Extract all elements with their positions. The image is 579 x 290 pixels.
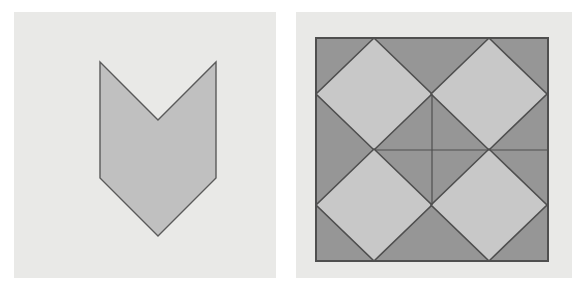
- figure-left-panel: [0, 0, 290, 290]
- figure-left-canvas: [0, 0, 290, 290]
- figure-right-panel: [290, 0, 579, 290]
- figure-right-canvas: [290, 0, 579, 290]
- figure-page: [0, 0, 579, 290]
